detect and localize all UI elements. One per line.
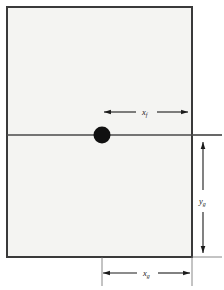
dimension-yg: yg xyxy=(198,142,206,253)
dimension-yg-label-sub: g xyxy=(203,201,206,207)
marked-point xyxy=(94,127,111,144)
dimension-xg-label-sub: g xyxy=(147,273,150,279)
dimension-yg-label: yg xyxy=(198,196,206,207)
figure-container: xf yg xg xyxy=(0,0,224,290)
dimension-xg-label: xg xyxy=(142,268,150,279)
dimension-xg: xg xyxy=(103,268,190,279)
geometry-diagram: xf yg xg xyxy=(0,0,224,290)
